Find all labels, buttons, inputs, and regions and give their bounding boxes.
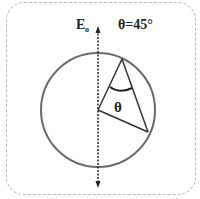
angle-value-label: θ=45° [118, 17, 153, 32]
field-subscript: o [85, 25, 89, 34]
angle-symbol: θ [114, 99, 122, 115]
field-label: E [76, 17, 85, 32]
angle-arc [110, 87, 132, 91]
arrow-down-icon [96, 181, 101, 188]
polarization-diagram: E o θ=45° θ [0, 0, 200, 199]
radius-line-2 [98, 110, 148, 132]
chord-line [122, 59, 148, 132]
arrow-up-icon [96, 26, 101, 33]
